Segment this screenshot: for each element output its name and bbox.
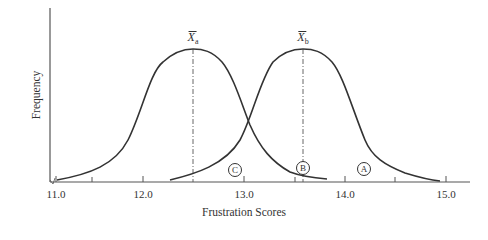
overbar	[298, 31, 306, 32]
mean-a-label: Xa	[188, 30, 199, 46]
overbar	[189, 31, 197, 32]
axis-break-mark	[50, 178, 55, 184]
region-b-label: B	[296, 161, 310, 175]
x-axis-title: Frustration Scores	[202, 206, 286, 218]
region-a-label: A	[357, 162, 371, 176]
mean-b-label: Xb	[297, 30, 308, 46]
x-tick-label: 13.0	[234, 188, 253, 200]
x-tick-label: 12.0	[133, 188, 152, 200]
x-tick-label: 11.0	[47, 188, 66, 200]
region-c-label: C	[228, 163, 242, 177]
x-tick-label: 14.0	[335, 188, 354, 200]
y-axis-title: Frequency	[30, 71, 42, 120]
x-tick-label: 15.0	[436, 188, 455, 200]
curve-a	[57, 49, 327, 180]
x-major-ticks	[56, 176, 446, 182]
